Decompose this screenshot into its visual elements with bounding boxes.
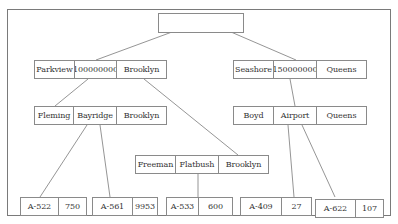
leaf-balance: 27 xyxy=(282,198,311,215)
node-seashore: Seashore 150000000 Queens xyxy=(233,60,367,79)
leaf-account: A-409 xyxy=(241,198,282,215)
edge-fleming-to-a561 xyxy=(100,125,110,197)
leaf-a561: A-561 9953 xyxy=(92,197,158,216)
node-cell: Freeman xyxy=(136,156,176,173)
leaf-balance: 107 xyxy=(356,200,383,217)
leaf-a622: A-622 107 xyxy=(315,199,384,218)
leaf-account: A-561 xyxy=(93,198,133,215)
edge-root-to-seashore xyxy=(231,32,296,60)
leaf-a533: A-533 600 xyxy=(166,197,233,216)
node-cell: Seashore xyxy=(234,61,274,78)
leaf-account: A-522 xyxy=(21,198,59,215)
node-parkview: Parkview 100000000 Brooklyn xyxy=(34,60,167,79)
node-cell: Bayridge xyxy=(74,107,117,124)
node-cell: Brooklyn xyxy=(219,156,268,173)
edge-seashore-to-boyd xyxy=(290,79,295,106)
leaf-a409: A-409 27 xyxy=(240,197,312,216)
node-cell: Fleming xyxy=(35,107,74,124)
edge-root-to-parkview xyxy=(96,32,172,60)
leaf-account: A-622 xyxy=(316,200,356,217)
leaf-balance: 750 xyxy=(59,198,86,215)
node-cell: Boyd xyxy=(234,107,274,124)
node-cell: Queens xyxy=(317,107,366,124)
root-node xyxy=(158,13,244,33)
edge-fleming-to-a522 xyxy=(40,125,87,197)
node-cell: Airport xyxy=(274,107,317,124)
node-cell: Flatbush xyxy=(176,156,219,173)
node-cell: 100000000 xyxy=(75,61,117,78)
node-cell: Queens xyxy=(317,61,366,78)
node-freeman: Freeman Flatbush Brooklyn xyxy=(135,155,269,174)
node-cell: 150000000 xyxy=(274,61,317,78)
edge-boyd-to-a409 xyxy=(288,125,294,197)
node-boyd: Boyd Airport Queens xyxy=(233,106,367,125)
edge-parkview-to-fleming xyxy=(55,79,88,106)
node-cell: Parkview xyxy=(35,61,75,78)
node-fleming: Fleming Bayridge Brooklyn xyxy=(34,106,167,125)
node-cell: Brooklyn xyxy=(117,107,166,124)
leaf-account: A-533 xyxy=(167,198,199,215)
node-cell: Brooklyn xyxy=(117,61,166,78)
edge-boyd-to-a622 xyxy=(302,125,335,197)
leaf-a522: A-522 750 xyxy=(20,197,87,216)
leaf-balance: 9953 xyxy=(133,198,157,215)
leaf-balance: 600 xyxy=(199,198,232,215)
